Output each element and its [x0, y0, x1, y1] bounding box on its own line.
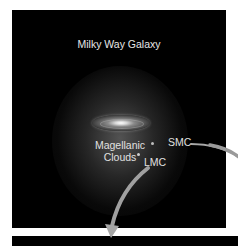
smc-label: SMC	[168, 136, 191, 148]
lmc-label: LMC	[144, 156, 166, 168]
smc-dot	[151, 142, 154, 145]
lmc-dot	[137, 153, 140, 156]
milky-way-panel: Milky Way Galaxy Magellanic Clouds SMC L…	[12, 10, 226, 228]
magellanic-label-line1: Magellanic	[88, 139, 152, 151]
diagram-title: Milky Way Galaxy	[12, 38, 226, 50]
detail-panel	[12, 236, 238, 246]
magellanic-clouds-label: Magellanic Clouds	[88, 139, 152, 163]
galaxy-disk	[92, 115, 150, 131]
magellanic-label-line2: Clouds	[88, 151, 152, 163]
